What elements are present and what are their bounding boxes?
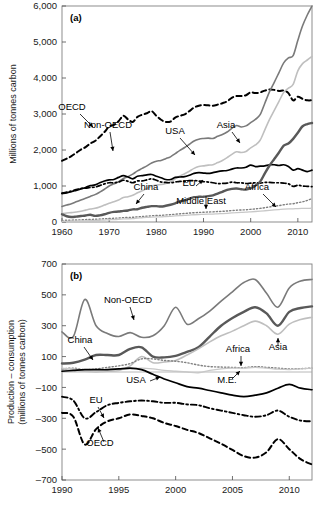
leader-arrowhead (110, 147, 114, 151)
series-annotation-usa: USA (165, 125, 185, 136)
series-annotation-middle-east: Middle East (176, 195, 226, 206)
leader-arrowhead (204, 205, 208, 209)
y-axis-title-line: Millions of tonnes carbon (8, 64, 18, 164)
y-tick-label: 100 (41, 351, 57, 362)
series-annotation-asia: Asia (217, 119, 236, 130)
panel-a-svg: 01,0002,0003,0004,0005,0006,000196019701… (0, 0, 318, 252)
series-annotation-non-oecd: Non-OECD (104, 294, 152, 305)
y-tick-label: 4,000 (33, 72, 57, 83)
y-tick-label: 500 (41, 289, 57, 300)
x-tick-label: 1970 (99, 226, 120, 237)
leader-arrowhead (239, 362, 243, 366)
figure-container: 01,0002,0003,0004,0005,0006,000196019701… (0, 0, 318, 510)
series-annotation-africa: Africa (245, 181, 270, 192)
x-tick-label: 1960 (51, 226, 72, 237)
series-annotation-usa: USA (126, 374, 146, 385)
series-annotation-china: China (68, 334, 94, 345)
series-line-africa (62, 358, 312, 369)
x-tick-label: 2000 (165, 484, 186, 495)
leader-arrowhead (236, 138, 240, 143)
y-tick-label: 6,000 (33, 0, 57, 11)
series-annotation-eu: EU (182, 177, 195, 188)
panel-b-svg: –700–500–300–100100300500700199019952000… (0, 256, 318, 510)
y-axis-title-line: Production – consumption (6, 320, 16, 424)
y-axis-title-line: (millions of tonnes carbon) (17, 319, 27, 425)
x-tick-label: 2005 (222, 484, 243, 495)
series-annotation-africa: Africa (226, 343, 251, 354)
y-tick-label: 700 (41, 258, 57, 269)
series-annotation-m-e-: M.E. (217, 374, 237, 385)
y-tick-label: –100 (36, 382, 57, 393)
x-tick-label: 1995 (108, 484, 129, 495)
series-line-non-oecd (62, 279, 312, 338)
chart-panel-b: –700–500–300–100100300500700199019952000… (0, 256, 318, 510)
y-tick-label: 2,000 (33, 144, 57, 155)
series-annotation-non-oecd: Non-OECD (84, 119, 132, 130)
series-annotation-oecd: OECD (86, 437, 114, 448)
series-annotation-eu: EU (89, 394, 102, 405)
y-tick-label: –300 (36, 413, 57, 424)
x-tick-label: 1990 (51, 484, 72, 495)
panel-tag: (b) (70, 270, 82, 281)
panel-b-plot-area: –700–500–300–100100300500700199019952000… (0, 256, 318, 510)
y-tick-label: 300 (41, 320, 57, 331)
y-axis-title: Millions of tonnes carbon (8, 64, 18, 164)
y-tick-label: 5,000 (33, 36, 57, 47)
y-tick-label: –500 (36, 444, 57, 455)
x-tick-label: 2010 (287, 226, 308, 237)
series-annotation-oecd: OECD (58, 101, 86, 112)
x-tick-label: 2010 (279, 484, 300, 495)
x-tick-label: 1990 (193, 226, 214, 237)
y-axis-title: Production – consumption(millions of ton… (6, 319, 27, 425)
plot-frame (62, 6, 312, 222)
chart-panel-a: 01,0002,0003,0004,0005,0006,000196019701… (0, 0, 318, 252)
x-tick-label: 2000 (240, 226, 261, 237)
panel-a-plot-area: 01,0002,0003,0004,0005,0006,000196019701… (0, 0, 318, 252)
y-tick-label: 1,000 (33, 180, 57, 191)
series-annotation-china: China (134, 181, 160, 192)
series-line-asia (62, 56, 312, 213)
x-tick-label: 1980 (146, 226, 167, 237)
panel-tag: (a) (70, 12, 82, 23)
y-tick-label: 3,000 (33, 108, 57, 119)
